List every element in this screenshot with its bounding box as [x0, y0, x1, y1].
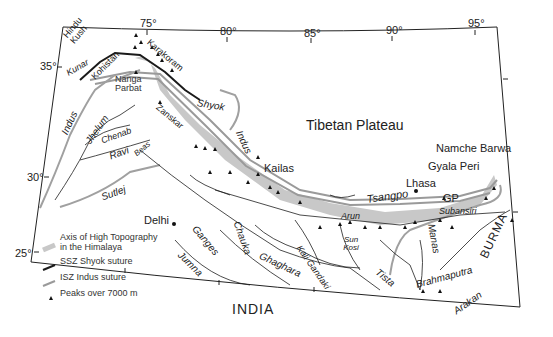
delhi-label: Delhi: [144, 215, 169, 226]
legend-label-peaks: Peaks over 7000 m: [60, 288, 138, 298]
legend-label-shyok-suture: SSZ Shyok suture: [60, 256, 133, 266]
nanga-parbat-label: Nanga Parbat: [115, 75, 141, 93]
tibetan-plateau-label: Tibetan Plateau: [306, 118, 404, 132]
lhasa-label: Lhasa: [406, 178, 436, 189]
arun-river-label: Arun: [341, 212, 360, 221]
legend-item-topography: Axis of High Topography in the Himalaya: [40, 232, 190, 256]
kailas-label: Kailas: [264, 163, 294, 174]
map-legend: Axis of High Topography in the Himalaya …: [40, 232, 190, 304]
lat-25-label: 25°: [15, 248, 32, 259]
namche-barwa-label: Namche Barwa: [436, 143, 511, 154]
lon-90-label: 90°: [386, 25, 403, 36]
legend-label-topography: Axis of High Topography in the Himalaya: [60, 232, 160, 252]
legend-label-indus-suture: ISZ Indus suture: [60, 272, 126, 282]
lon-80-label: 80°: [220, 26, 237, 37]
lat-35-label: 35°: [40, 61, 57, 72]
lon-95-label: 95°: [468, 18, 485, 29]
sun-kosi-river-label: Sun Kosi: [341, 236, 361, 252]
lat-30-label: 30°: [27, 172, 44, 183]
india-label: INDIA: [232, 302, 274, 316]
legend-item-peaks: Peaks over 7000 m: [40, 288, 190, 304]
gp-label: GP: [443, 193, 459, 204]
lon-75-label: 75°: [140, 18, 157, 29]
legend-item-indus-suture: ISZ Indus suture: [40, 272, 190, 288]
lon-85-label: 85°: [304, 28, 321, 39]
gyala-peri-label: Gyala Peri: [428, 161, 479, 172]
subansiri-river-label: Subansiri: [439, 207, 477, 216]
legend-item-shyok-suture: SSZ Shyok suture: [40, 256, 190, 272]
